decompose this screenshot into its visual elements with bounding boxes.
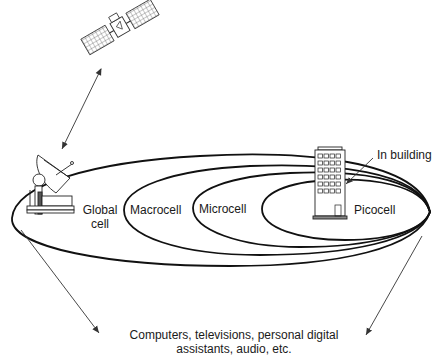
global-cell-label-line1: Global [78, 203, 122, 217]
diagram-canvas [0, 0, 448, 364]
devices-label-line2: assistants, audio, etc. [100, 342, 368, 356]
building-icon [313, 147, 347, 219]
devices-label: Computers, televisions, personal digital… [100, 328, 368, 356]
macrocell-label: Macrocell [130, 203, 181, 217]
picocell-boundary [262, 180, 430, 240]
picocell-label: Picocell [354, 203, 395, 217]
satellite-icon [78, 0, 159, 55]
satellite-link-arrow [62, 69, 101, 149]
devices-arrow-left [21, 230, 99, 333]
microcell-label: Microcell [199, 202, 246, 216]
satellite-dish-icon [27, 155, 74, 214]
global-cell-label: Global cell [78, 203, 122, 231]
devices-label-line1: Computers, televisions, personal digital [100, 328, 368, 342]
in-building-label: In building [377, 148, 432, 162]
global-cell-label-line2: cell [78, 217, 122, 231]
